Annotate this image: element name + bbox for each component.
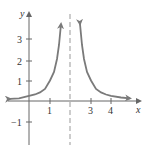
x-axis-label: x	[135, 104, 141, 115]
y-tick-label-neg1: −1	[11, 117, 22, 128]
y-tick-label-3: 3	[17, 34, 22, 45]
y-tick-label-1: 1	[17, 76, 22, 87]
x-tick-label-3: 3	[88, 105, 93, 116]
curve-right-branch	[80, 24, 130, 98]
x-tick-label-1: 1	[47, 105, 52, 116]
x-tick-label-4: 4	[108, 105, 113, 116]
y-tick-label-2: 2	[17, 56, 22, 67]
y-axis-label: y	[19, 8, 25, 19]
function-graph: y x 1 3 4 3 2 1 −1	[0, 0, 145, 151]
